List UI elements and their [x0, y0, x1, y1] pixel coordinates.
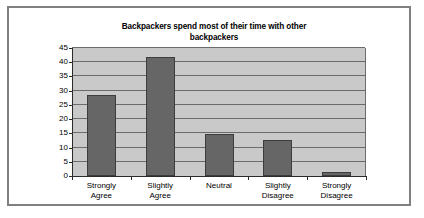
bar [263, 140, 292, 176]
gridline [72, 75, 365, 76]
x-tick-mark [307, 177, 308, 180]
x-tick-label: Neutral [190, 181, 249, 191]
bar [205, 134, 234, 176]
x-axis-ticks: Strongly AgreeSlightly AgreeNeutralSligh… [72, 177, 366, 207]
chart-title-line-2: backpackers [190, 33, 239, 42]
x-tick-label: Slightly Agree [131, 181, 190, 200]
chart-title-line-1: Backpackers spend most of their time wit… [122, 22, 307, 31]
gridline [72, 90, 365, 91]
x-tick-mark [366, 177, 367, 180]
y-tick-mark [69, 148, 72, 149]
bar [87, 95, 116, 176]
chart-figure-frame: Backpackers spend most of their time wit… [7, 6, 411, 206]
x-tick-label: Slightly Disagree [248, 181, 307, 200]
x-tick-label: Strongly Agree [72, 181, 131, 200]
x-tick-label: Strongly Disagree [307, 181, 366, 200]
y-tick-mark [69, 105, 72, 106]
y-tick-mark [69, 133, 72, 134]
y-tick-mark [69, 119, 72, 120]
y-tick-mark [69, 48, 72, 49]
gridline [72, 61, 365, 62]
x-tick-mark [131, 177, 132, 180]
y-axis-line [72, 48, 73, 177]
x-tick-mark [72, 177, 73, 180]
y-tick-mark [69, 91, 72, 92]
gridline [72, 118, 365, 119]
gridline [72, 104, 365, 105]
plot-area [72, 48, 366, 176]
y-tick-mark [69, 62, 72, 63]
bar [146, 57, 175, 176]
y-tick-mark [69, 76, 72, 77]
gridline [72, 47, 365, 48]
chart-title: Backpackers spend most of their time wit… [69, 21, 359, 43]
x-tick-mark [248, 177, 249, 180]
x-tick-mark [190, 177, 191, 180]
y-tick-mark [69, 162, 72, 163]
